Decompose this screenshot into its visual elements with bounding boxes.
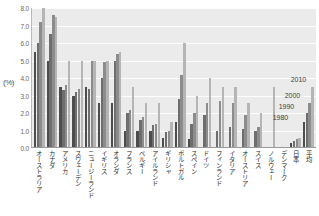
bar: [222, 87, 224, 148]
x-tick-label: スペイン: [186, 150, 199, 216]
bar: [209, 78, 211, 148]
x-tick-label: イギリス: [96, 150, 109, 216]
legend-entry: 1990: [279, 103, 294, 110]
bar-group: [136, 8, 149, 148]
bar: [106, 61, 108, 149]
x-tick-label: ニュージーランド: [83, 150, 96, 216]
y-tick-label: 5.0: [21, 57, 29, 64]
x-tick-label: スウェーデン: [71, 150, 84, 216]
x-tick-label: 日本: [289, 150, 302, 216]
x-tick-label: フィンランド: [212, 150, 225, 216]
bar-group: [110, 8, 123, 148]
y-tick-label: 6.0: [21, 40, 29, 47]
bar: [93, 61, 95, 149]
bar-group: [161, 8, 174, 148]
x-tick-label: 平均: [302, 150, 315, 216]
y-tick-label: 2.0: [21, 110, 29, 117]
y-tick-label: 1.0: [21, 127, 29, 134]
x-tick-label: ドイツ: [199, 150, 212, 216]
legend-entry: 2010: [291, 76, 306, 83]
legend-entry: 1980: [273, 114, 288, 121]
x-tick-label: フランス: [122, 150, 135, 216]
x-tick-label: オーストラリア: [32, 150, 45, 216]
x-tick-label: カナダ: [45, 150, 58, 216]
y-tick-label: 0.0: [21, 145, 29, 152]
x-tick-label: オーストリア: [238, 150, 251, 216]
x-axis-line: [31, 147, 316, 148]
chart-legend: 2010200019901980: [230, 76, 306, 134]
x-tick-label: デンマーク: [276, 150, 289, 216]
x-tick-label: アメリカ: [58, 150, 71, 216]
x-tick-label: ポルトガル: [173, 150, 186, 216]
bar-group: [174, 8, 187, 148]
y-tick-label: 8.0: [21, 5, 29, 12]
bar-group: [123, 8, 136, 148]
x-tick-label: ベルギー: [135, 150, 148, 216]
y-axis-tick-labels: 0.01.02.03.04.05.06.07.08.0: [13, 8, 29, 148]
bar: [158, 103, 160, 149]
bar-group: [212, 8, 225, 148]
x-tick-label: スイス: [251, 150, 264, 216]
bar-group: [59, 8, 72, 148]
bar-group: [148, 8, 161, 148]
x-tick-label: オランダ: [109, 150, 122, 216]
bar-group: [200, 8, 213, 148]
bar-group: [71, 8, 84, 148]
legend-entry: 2000: [285, 92, 300, 99]
bar-group: [84, 8, 97, 148]
bar: [132, 87, 134, 148]
x-tick-label: アイルランド: [148, 150, 161, 216]
x-axis-tick-labels: オーストラリアカナダアメリカスウェーデンニュージーランドイギリスオランダフランス…: [31, 150, 316, 216]
bar: [170, 122, 172, 148]
bar: [119, 52, 121, 148]
x-tick-label: ギリシャ: [161, 150, 174, 216]
bar: [145, 103, 147, 149]
bar-group: [97, 8, 110, 148]
x-tick-label: イタリア: [225, 150, 238, 216]
y-tick-label: 4.0: [21, 75, 29, 82]
y-tick-label: 3.0: [21, 92, 29, 99]
bar: [55, 17, 57, 148]
bar-group: [187, 8, 200, 148]
bar: [196, 96, 198, 149]
y-tick-label: 7.0: [21, 22, 29, 29]
bar: [183, 43, 185, 148]
bar-group: [33, 8, 46, 148]
bar-chart: (%) 0.01.02.03.04.05.06.07.08.0 20102000…: [0, 0, 319, 216]
x-tick-label: ノルウェー: [263, 150, 276, 216]
bar: [68, 61, 70, 149]
bar: [311, 87, 313, 148]
bar: [81, 61, 83, 149]
bar: [42, 8, 44, 148]
bar-group: [46, 8, 59, 148]
